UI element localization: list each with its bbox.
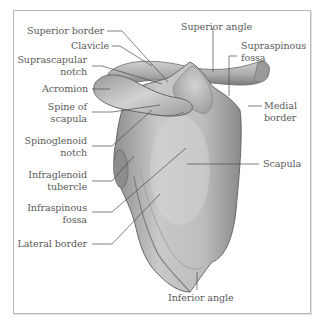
label-acromion: Acromion: [42, 83, 88, 95]
label-infraspinous-fossa: Infraspinous fossa: [27, 202, 87, 227]
label-suprascapular-notch: Suprascapular notch: [17, 54, 87, 79]
label-infraglenoid-tubercle: Infraglenoid tubercle: [28, 169, 87, 194]
label-superior-angle: Superior angle: [181, 21, 252, 33]
label-spine-of-scapula: Spine of scapula: [48, 101, 87, 126]
label-superior-border: Superior border: [27, 25, 104, 37]
label-clavicle: Clavicle: [71, 40, 109, 52]
label-lateral-border: Lateral border: [17, 238, 87, 250]
label-scapula: Scapula: [263, 158, 301, 170]
label-supraspinous-fossa: Supraspinous fossa: [241, 40, 306, 65]
label-spinoglenoid-notch: Spinoglenoid notch: [24, 135, 87, 160]
label-inferior-angle: Inferior angle: [168, 292, 234, 304]
label-medial-border: Medial border: [264, 100, 297, 125]
